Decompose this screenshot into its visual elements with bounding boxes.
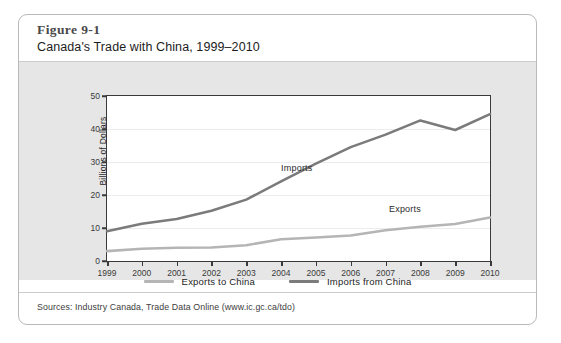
y-tick-label: 10 (91, 223, 100, 233)
x-tick-mark (107, 261, 109, 266)
chart-area: Billions of Dollars 01020304050 19992000… (19, 62, 536, 280)
legend-swatch (289, 280, 319, 283)
y-tick-label: 0 (95, 256, 100, 266)
legend-label: Exports to China (182, 276, 255, 287)
series-line (107, 217, 490, 251)
source-note: Sources: Industry Canada, Trade Data Onl… (37, 302, 295, 312)
y-tick-label: 20 (91, 190, 100, 200)
figure-header: Figure 9-1 Canada's Trade with China, 19… (19, 15, 536, 62)
x-tick-mark (142, 261, 144, 266)
x-tick-mark (490, 261, 492, 266)
y-tick-label: 40 (91, 124, 100, 134)
legend-item: Imports from China (289, 276, 411, 287)
x-tick-mark (351, 261, 353, 266)
x-tick-mark (177, 261, 179, 266)
x-tick-mark (386, 261, 388, 266)
source-divider (19, 292, 536, 293)
x-tick-mark (246, 261, 248, 266)
legend-item: Exports to China (144, 276, 255, 287)
x-tick-mark (420, 261, 422, 266)
figure-card: Figure 9-1 Canada's Trade with China, 19… (18, 14, 537, 325)
series-lines (107, 96, 490, 261)
chart-legend: Exports to ChinaImports from China (19, 271, 536, 291)
imports-series-label: Imports (281, 163, 312, 173)
x-tick-mark (455, 261, 457, 266)
x-tick-mark (211, 261, 213, 266)
y-tick-label: 50 (91, 91, 100, 101)
legend-swatch (144, 280, 174, 283)
plot-frame: Billions of Dollars 01020304050 19992000… (106, 95, 491, 262)
figure-number: Figure 9-1 (37, 21, 536, 38)
x-tick-mark (316, 261, 318, 266)
series-line (107, 114, 490, 231)
x-tick-mark (281, 261, 283, 266)
y-tick-label: 30 (91, 157, 100, 167)
figure-title: Canada's Trade with China, 1999–2010 (37, 38, 536, 57)
legend-label: Imports from China (327, 276, 411, 287)
exports-series-label: Exports (389, 204, 421, 214)
